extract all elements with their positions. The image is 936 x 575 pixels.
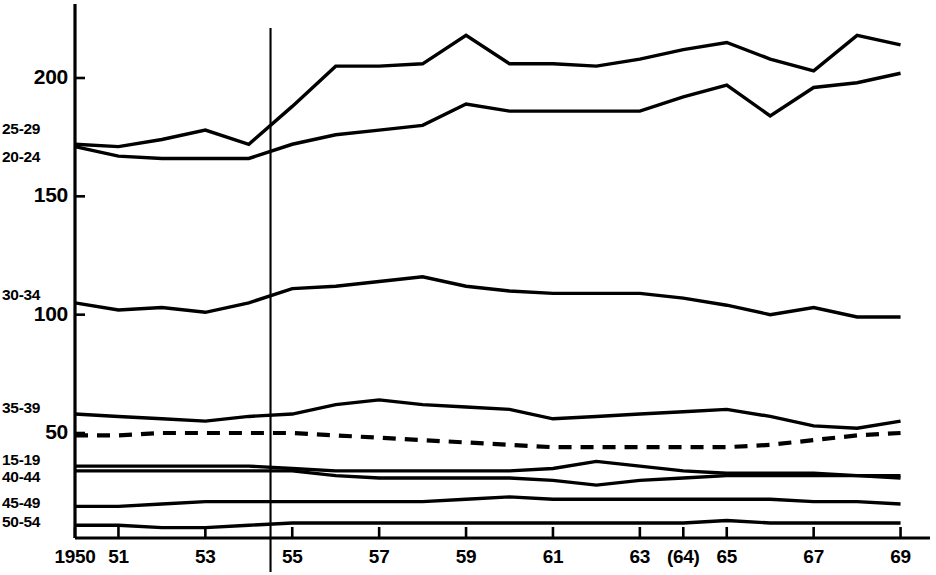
line-chart: 2001501005025-2920-2430-3435-3915-1940-4… <box>0 0 936 575</box>
series-label-20-24: 20-24 <box>2 148 72 166</box>
y-axis-label-50: 50 <box>0 420 68 444</box>
series-label-40-44: 40-44 <box>2 468 72 486</box>
x-axis-label-51: 51 <box>78 546 158 568</box>
x-axis-label-65: 65 <box>687 546 767 568</box>
series-line-25-29 <box>75 35 901 146</box>
series-line-total-dashed-reference <box>75 433 901 447</box>
x-axis-label-59: 59 <box>426 546 506 568</box>
series-line-20-24 <box>75 73 901 158</box>
series-label-25-29: 25-29 <box>2 120 72 138</box>
series-line-35-39 <box>75 400 901 428</box>
series-label-15-19: 15-19 <box>2 451 72 469</box>
x-axis-label-67: 67 <box>774 546 854 568</box>
chart-plot-area <box>0 0 936 575</box>
x-axis-label-69: 69 <box>861 546 936 568</box>
series-line-45-49 <box>75 497 901 506</box>
series-line-30-34 <box>75 277 901 317</box>
x-axis-label-53: 53 <box>165 546 245 568</box>
y-axis-label-200: 200 <box>0 65 68 89</box>
series-line-15-19 <box>75 461 901 475</box>
series-label-35-39: 35-39 <box>2 399 72 417</box>
series-label-30-34: 30-34 <box>2 286 72 304</box>
series-label-50-54: 50-54 <box>2 513 72 531</box>
series-label-45-49: 45-49 <box>2 494 72 512</box>
x-axis-label-55: 55 <box>252 546 332 568</box>
y-axis-label-150: 150 <box>0 183 68 207</box>
x-axis-label-61: 61 <box>513 546 593 568</box>
axis-group <box>75 4 930 538</box>
x-axis-label-57: 57 <box>339 546 419 568</box>
series-group <box>75 35 901 527</box>
series-line-50-54 <box>75 521 901 528</box>
y-axis-label-100: 100 <box>0 302 68 326</box>
